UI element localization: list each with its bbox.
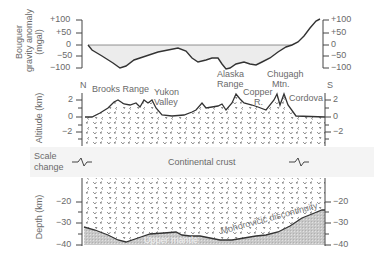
scale-change-label: Scale change (34, 151, 64, 173)
depth-tick-right-40: −40 (333, 239, 348, 249)
gravity-tick-left-neg50: −50 (57, 50, 72, 60)
label-brooks-range: Brooks Range (92, 84, 149, 94)
gravity-ylabel: Bouguer gravity anomaly (mgal) (14, 12, 44, 72)
continental-crust-label: Continental crust (168, 157, 236, 167)
gravity-tick-right-neg100: −100 (331, 62, 351, 72)
gravity-tick-left-neg100: −100 (50, 62, 70, 72)
label-copper-2: R. (254, 97, 263, 107)
depth-tick-left-40: −40 (56, 239, 71, 249)
label-alaska-2: Range (217, 79, 244, 89)
gravity-tick-right-50: +50 (331, 27, 346, 37)
gravity-tick-left-0: 0 (66, 39, 71, 49)
upper-mantle-label: Upper mantle (144, 235, 198, 245)
gravity-panel (76, 19, 329, 69)
altitude-tick-left-0: 0 (68, 111, 73, 121)
gravity-tick-left-50: +50 (56, 27, 71, 37)
altitude-tick-right-0: 0 (333, 111, 338, 121)
gravity-tick-right-100: +100 (331, 14, 351, 24)
depth-tick-right-20: −20 (333, 196, 348, 206)
gravity-tick-right-0: 0 (331, 39, 336, 49)
label-chugagh-2: Mtn. (272, 79, 290, 89)
label-cordova: Cordova (289, 93, 323, 103)
altitude-tick-left-2: 2 (68, 94, 73, 104)
north-label: N (80, 80, 87, 90)
gravity-tick-right-neg50: −50 (331, 50, 346, 60)
depth-ylabel: Depth (km) (34, 178, 44, 256)
altitude-tick-right-neg2: −2 (333, 126, 343, 136)
label-yukon-1: Yukon (154, 87, 179, 97)
altitude-tick-right-2: 2 (333, 94, 338, 104)
south-label: S (327, 80, 333, 90)
label-alaska-1: Alaska (217, 69, 244, 79)
label-chugagh-1: Chugagh (267, 69, 304, 79)
altitude-ylabel: Altitude (km) (34, 90, 44, 146)
depth-tick-right-30: −30 (333, 217, 348, 227)
gravity-tick-left-100: +100 (50, 14, 70, 24)
depth-tick-left-20: −20 (56, 196, 71, 206)
depth-tick-left-30: −30 (56, 217, 71, 227)
label-yukon-2: Valley (154, 97, 178, 107)
label-copper-1: Copper (243, 87, 273, 97)
altitude-tick-left-neg2: −2 (62, 126, 72, 136)
